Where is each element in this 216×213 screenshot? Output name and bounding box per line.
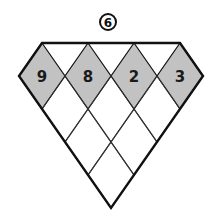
- empty-cell[interactable]: [111, 109, 157, 175]
- cell-number-1: 9: [37, 68, 47, 86]
- cell-number-4: 3: [175, 68, 185, 86]
- cell-number-3: 2: [129, 68, 139, 86]
- cell-number-2: 8: [83, 68, 93, 86]
- empty-cell[interactable]: [88, 142, 134, 208]
- badge-number: 6: [104, 16, 112, 30]
- empty-cell-grid: [42, 76, 180, 208]
- empty-cell[interactable]: [65, 109, 111, 175]
- diamond-puzzle: 6 9 8 2 3: [0, 0, 216, 213]
- puzzle-number-badge: 6: [100, 14, 116, 30]
